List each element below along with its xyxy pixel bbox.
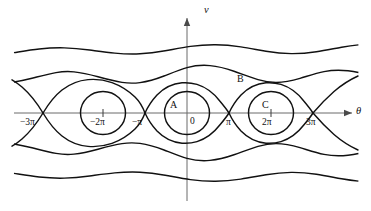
separatrix-upper-lobe-minus-2pi xyxy=(43,79,145,113)
phase-portrait-figure: v θ −3π −2π −π 0 π 2π 3π A B C xyxy=(0,0,371,211)
separatrix-tail-right-lower xyxy=(313,113,358,150)
theta-axis-arrowhead xyxy=(344,110,352,116)
tick-label-minus-2pi: −2π xyxy=(90,118,105,128)
v-axis-arrowhead xyxy=(184,18,190,26)
region-label-c: C xyxy=(262,100,269,110)
origin-label: 0 xyxy=(190,117,195,127)
rotation-curve-inner-upper xyxy=(14,65,358,83)
tick-label-minus-3pi: −3π xyxy=(20,118,35,128)
phase-portrait-canvas xyxy=(0,0,371,211)
region-label-a: A xyxy=(170,100,177,110)
rotation-curve-outer-lower xyxy=(14,172,358,181)
separatrix-tail-left-upper xyxy=(12,80,43,113)
tick-label-3pi: 3π xyxy=(306,118,316,128)
separatrix-tail-right-upper xyxy=(313,76,358,113)
region-label-b: B xyxy=(237,74,244,84)
theta-axis-label: θ xyxy=(356,106,361,117)
rotation-curve-outer-upper xyxy=(14,45,358,54)
separatrix-upper-lobe-2pi xyxy=(229,83,313,113)
tick-label-minus-pi: −π xyxy=(132,118,142,128)
tick-label-pi: π xyxy=(226,118,231,128)
tick-label-2pi: 2π xyxy=(262,118,272,128)
rotation-curve-inner-lower xyxy=(14,143,358,161)
v-axis-label: v xyxy=(204,5,209,16)
